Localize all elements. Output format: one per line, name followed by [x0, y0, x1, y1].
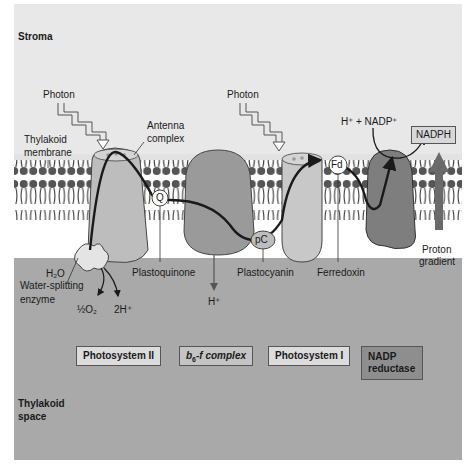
thylakoid-membrane-label-1: Thylakoid: [24, 134, 67, 146]
water-enzyme-label-1: Water-splitting: [20, 280, 84, 292]
photosystem-i-box: Photosystem I: [268, 346, 350, 366]
nadph-box: NADPH: [411, 126, 456, 144]
nadp-reductase-line2: reductase: [368, 363, 415, 374]
stroma-region: [14, 4, 462, 154]
q-label: Q: [156, 192, 164, 204]
photosystem-ii-box: Photosystem II: [76, 346, 161, 366]
thylakoid-space-label-1: Thylakoid: [18, 398, 65, 410]
b6f-complex-box: b6-f complex: [179, 346, 253, 366]
2h-plus-label: 2H⁺: [114, 304, 132, 316]
h2o-label: H₂O: [46, 268, 65, 280]
h-nadp-label: H⁺ + NADP⁺: [341, 116, 397, 128]
thylakoid-space-label-2: space: [18, 411, 46, 423]
stroma-label: Stroma: [18, 31, 52, 43]
plastocyanin-label: Plastocyanin: [237, 267, 294, 279]
fd-label: Fd: [331, 159, 343, 171]
proton-gradient-label-1: Proton: [422, 244, 451, 256]
photon-label-right: Photon: [227, 89, 259, 101]
photosystem-i-shape: [282, 160, 322, 262]
water-enzyme-label-2: enzyme: [20, 294, 55, 306]
thylakoid-membrane-label-2: membrane: [24, 147, 72, 159]
ferredoxin-label: Ferredoxin: [317, 267, 365, 279]
proton-gradient-label-2: gradient: [419, 256, 455, 268]
nadp-reductase-line1: NADP: [368, 351, 396, 362]
photon-label-left: Photon: [43, 89, 75, 101]
pc-label: pC: [255, 234, 268, 246]
half-o2-label: ½O₂: [77, 304, 97, 316]
antenna-label-2: complex: [147, 133, 184, 145]
antenna-label-1: Antenna: [147, 120, 184, 132]
h-plus-label: H⁺: [208, 296, 220, 308]
diagram-graphics: [0, 0, 473, 467]
b6f-rest: -f complex: [196, 350, 246, 361]
photosynthesis-diagram: Q pC Fd Stroma Thylakoid space Thylakoid…: [0, 0, 473, 467]
plastoquinone-label: Plastoquinone: [132, 267, 195, 279]
nadp-reductase-box: NADPreductase: [361, 346, 423, 380]
